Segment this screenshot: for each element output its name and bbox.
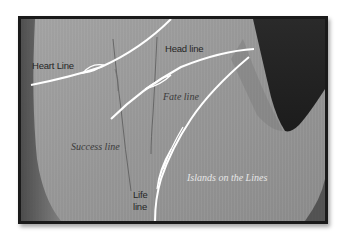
islands-label: Islands on the Lines [187,173,267,183]
life-line-label-2: line [133,201,148,213]
fate-line-label: Fate line [163,92,199,102]
palm-photo: Heart Line Head line Fate line Success l… [18,16,328,224]
figure-stage: Heart Line Head line Fate line Success l… [0,0,362,248]
success-line-label: Success line [71,142,120,152]
head-line-label: Head line [165,44,203,54]
heart-line-label: Heart Line [32,61,74,71]
life-line-label: Life line [133,189,148,213]
life-line-label-1: Life [133,189,148,201]
